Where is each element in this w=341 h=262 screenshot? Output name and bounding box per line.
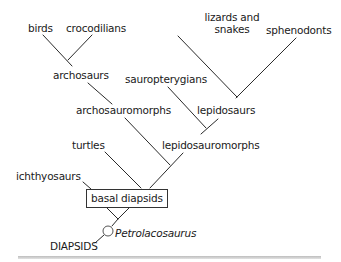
label-lepidosauromorphs: lepidosauromorphs xyxy=(162,139,259,151)
branch-stem xyxy=(112,219,118,226)
bottom-divider-rule xyxy=(18,256,321,259)
branch-sphenodonts xyxy=(236,38,296,98)
branch-lizards-snakes xyxy=(178,36,237,97)
label-lepidosaurs: lepidosaurs xyxy=(197,104,255,116)
label-lizards-line2: snakes xyxy=(196,23,268,35)
label-archosaurs: archosaurs xyxy=(53,69,109,81)
basal-diapsids-box: basal diapsids xyxy=(86,189,168,208)
petrolacosaurus-node-circle xyxy=(103,226,113,236)
cladogram-lines xyxy=(0,0,341,262)
branch-lepidosauromorphs xyxy=(150,153,183,188)
label-crocodilians: crocodilians xyxy=(66,22,126,34)
branch-box-left xyxy=(107,208,118,219)
label-archosauromorphs: archosauromorphs xyxy=(76,104,171,116)
branch-ichthyosaurs xyxy=(83,182,91,189)
branch-turtles xyxy=(105,152,141,188)
branch-birds xyxy=(43,35,72,66)
branch-crocodilians xyxy=(68,35,92,60)
branch-box-right xyxy=(118,208,129,219)
label-birds: birds xyxy=(28,22,53,34)
branch-archosaurs xyxy=(88,83,112,104)
label-lizards-snakes: lizards and snakes xyxy=(196,11,268,35)
label-lizards-line1: lizards and xyxy=(196,11,268,23)
label-sauropterygians: sauropterygians xyxy=(125,73,207,85)
label-petrolacosaurus: Petrolacosaurus xyxy=(115,227,196,239)
label-diapsids: DIAPSIDS xyxy=(50,240,98,252)
label-ichthyosaurs: ichthyosaurs xyxy=(16,170,81,182)
label-turtles: turtles xyxy=(72,139,105,151)
label-sphenodonts: sphenodonts xyxy=(266,24,331,36)
branch-lepidosaurs xyxy=(201,119,218,134)
